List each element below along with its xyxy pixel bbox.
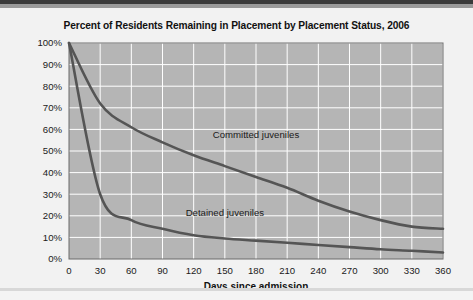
x-axis-title: Days since admission [204, 281, 309, 288]
x-axis-tick-label: 60 [126, 265, 137, 276]
x-axis-tick-label: 0 [66, 265, 71, 276]
y-axis-tick-label: 50% [43, 145, 63, 156]
series-label-committed: Committed juveniles [213, 129, 300, 140]
x-axis-tick-label: 120 [186, 265, 202, 276]
chart-figure: Percent of Residents Remaining in Placem… [0, 8, 473, 288]
x-axis-tick-label: 180 [248, 265, 264, 276]
x-axis-tick-label: 240 [310, 265, 326, 276]
y-axis-tick-label: 80% [43, 81, 63, 92]
y-axis-tick-label: 60% [43, 124, 63, 135]
chart-canvas: 0%10%20%30%40%50%60%70%80%90%100%0306090… [0, 8, 473, 288]
x-axis-tick-label: 90 [157, 265, 168, 276]
y-axis-tick-label: 40% [43, 167, 63, 178]
x-axis-tick-label: 210 [279, 265, 295, 276]
y-axis-tick-label: 10% [43, 232, 63, 243]
y-axis-tick-label: 20% [43, 210, 63, 221]
y-axis-tick-label: 70% [43, 102, 63, 113]
y-axis-tick-label: 90% [43, 59, 63, 70]
y-axis-tick-label: 30% [43, 189, 63, 200]
x-axis-tick-label: 300 [373, 265, 389, 276]
x-axis-tick-label: 330 [404, 265, 420, 276]
x-axis-tick-label: 360 [435, 265, 451, 276]
x-axis-tick-label: 270 [341, 265, 357, 276]
bottom-border-rule [0, 288, 473, 291]
x-axis-tick-label: 150 [217, 265, 233, 276]
y-axis-tick-label: 0% [48, 253, 62, 264]
y-axis-tick-label: 100% [37, 37, 62, 48]
series-label-detained: Detained juveniles [186, 207, 265, 218]
x-axis-tick-label: 30 [95, 265, 106, 276]
